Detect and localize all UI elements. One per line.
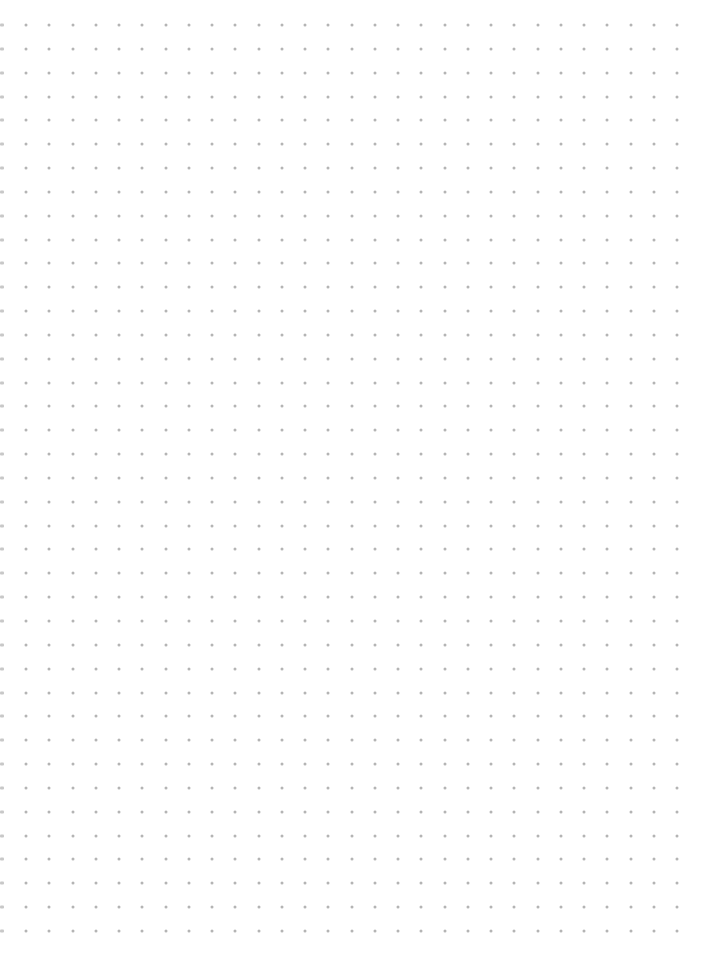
grid-dot	[676, 596, 679, 599]
grid-dot	[536, 71, 539, 74]
grid-dot	[257, 929, 260, 932]
grid-dot	[304, 214, 307, 217]
grid-dot	[559, 763, 562, 766]
grid-dot	[211, 882, 214, 885]
grid-dot	[397, 381, 400, 384]
grid-dot	[420, 476, 423, 479]
grid-dot	[513, 333, 516, 336]
grid-dot	[350, 333, 353, 336]
grid-dot	[280, 286, 283, 289]
grid-dot	[25, 214, 28, 217]
grid-dot	[94, 906, 97, 909]
grid-dot	[420, 786, 423, 789]
grid-dot	[141, 476, 144, 479]
grid-dot	[94, 476, 97, 479]
grid-dot	[25, 715, 28, 718]
grid-dot	[257, 763, 260, 766]
grid-dot	[536, 643, 539, 646]
grid-dot	[257, 381, 260, 384]
grid-dot	[466, 333, 469, 336]
grid-dot	[257, 643, 260, 646]
grid-dot	[420, 691, 423, 694]
grid-dot	[490, 882, 493, 885]
grid-dot	[559, 882, 562, 885]
grid-dot	[327, 381, 330, 384]
grid-dot	[397, 214, 400, 217]
grid-dot	[48, 834, 51, 837]
grid-dot	[141, 405, 144, 408]
grid-dot	[234, 858, 237, 861]
grid-dot	[280, 238, 283, 241]
grid-dot	[536, 214, 539, 217]
grid-dot	[48, 453, 51, 456]
grid-dot	[304, 786, 307, 789]
grid-dot	[397, 429, 400, 432]
grid-dot	[443, 429, 446, 432]
grid-dot	[536, 763, 539, 766]
grid-dot	[490, 739, 493, 742]
grid-dot	[327, 238, 330, 241]
grid-dot	[490, 167, 493, 170]
grid-dot	[559, 524, 562, 527]
grid-dot	[234, 167, 237, 170]
grid-dot	[443, 333, 446, 336]
grid-dot	[350, 119, 353, 122]
grid-dot	[629, 119, 632, 122]
grid-dot	[350, 524, 353, 527]
grid-dot	[676, 572, 679, 575]
grid-dot	[373, 786, 376, 789]
grid-dot	[187, 500, 190, 503]
grid-dot	[350, 381, 353, 384]
grid-dot	[234, 310, 237, 313]
grid-dot	[606, 453, 609, 456]
grid-dot	[466, 262, 469, 265]
edge-mark	[0, 381, 4, 384]
grid-dot	[652, 810, 655, 813]
grid-dot	[327, 548, 330, 551]
grid-dot	[443, 95, 446, 98]
grid-dot	[25, 667, 28, 670]
grid-dot	[327, 71, 330, 74]
grid-dot	[350, 190, 353, 193]
grid-dot	[211, 310, 214, 313]
grid-dot	[141, 310, 144, 313]
grid-dot	[676, 715, 679, 718]
grid-dot	[559, 95, 562, 98]
grid-dot	[327, 763, 330, 766]
grid-dot	[257, 786, 260, 789]
grid-dot	[559, 691, 562, 694]
grid-dot	[48, 763, 51, 766]
grid-dot	[420, 500, 423, 503]
grid-dot	[490, 381, 493, 384]
grid-dot	[490, 119, 493, 122]
grid-dot	[513, 763, 516, 766]
grid-dot	[373, 357, 376, 360]
grid-dot	[420, 119, 423, 122]
grid-dot	[327, 810, 330, 813]
grid-dot	[629, 381, 632, 384]
grid-dot	[187, 47, 190, 50]
grid-dot	[490, 238, 493, 241]
grid-dot	[559, 643, 562, 646]
grid-dot	[373, 667, 376, 670]
grid-dot	[164, 667, 167, 670]
grid-dot	[71, 667, 74, 670]
grid-dot	[583, 95, 586, 98]
grid-dot	[164, 810, 167, 813]
grid-dot	[513, 834, 516, 837]
grid-dot	[466, 548, 469, 551]
grid-dot	[94, 667, 97, 670]
grid-dot	[490, 786, 493, 789]
grid-dot	[280, 548, 283, 551]
grid-dot	[606, 476, 609, 479]
grid-dot	[48, 906, 51, 909]
grid-dot	[466, 834, 469, 837]
grid-dot	[559, 476, 562, 479]
grid-dot	[443, 286, 446, 289]
grid-dot	[559, 238, 562, 241]
grid-dot	[629, 405, 632, 408]
grid-dot	[48, 47, 51, 50]
grid-dot	[490, 95, 493, 98]
grid-dot	[629, 333, 632, 336]
grid-dot	[187, 453, 190, 456]
